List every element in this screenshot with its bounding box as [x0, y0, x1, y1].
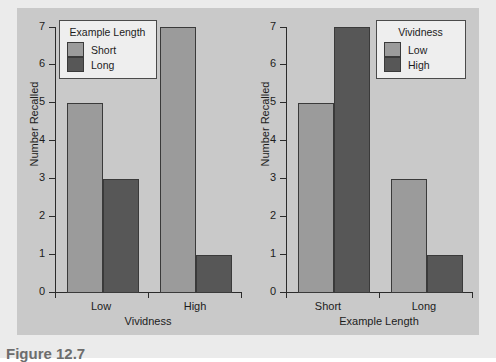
x-axis-title-right: Example Length — [286, 315, 472, 327]
legend-row-long: Long — [67, 57, 148, 72]
legend-label-low: Low — [408, 44, 427, 56]
legend-row-short: Short — [67, 42, 148, 57]
legend-row-low: Low — [384, 42, 457, 57]
bar-high-short — [160, 27, 196, 293]
legend-row-high: High — [384, 57, 457, 72]
y-tick-label-1-left: 1 — [39, 247, 45, 259]
figure-caption: Figure 12.7 — [6, 345, 85, 362]
bar-short-high — [334, 27, 370, 293]
legend-title-vividness: Vividness — [384, 26, 457, 38]
legend-vividness: Vividness Low High — [376, 20, 466, 79]
bar-high-long — [196, 255, 232, 293]
y-axis-title-left: Number Recalled — [28, 54, 40, 194]
x-tick-end-left — [241, 292, 242, 298]
bar-long-high — [427, 255, 463, 293]
legend-title-example-length: Example Length — [67, 26, 148, 38]
x-tick-label-short: Short — [288, 300, 368, 312]
y-tick-label-0-left: 0 — [39, 285, 45, 297]
bar-low-short — [67, 103, 103, 293]
bar-short-low — [298, 103, 334, 293]
legend-label-long: Long — [91, 59, 114, 71]
legend-swatch-long — [67, 57, 84, 72]
legend-swatch-low — [384, 42, 401, 57]
bar-low-long — [103, 179, 139, 293]
x-tick-middle-left — [148, 292, 149, 298]
x-axis-title-left: Vividness — [55, 315, 241, 327]
y-tick-label-0-right: 0 — [270, 285, 276, 297]
chart-panel-left: 0 1 2 3 4 5 6 7 Number Recalled — [17, 8, 248, 335]
x-tick-start-left — [55, 292, 56, 298]
y-tick-label-7-left: 7 — [39, 20, 45, 32]
y-axis-title-right: Number Recalled — [259, 54, 271, 194]
x-tick-label-low: Low — [61, 300, 141, 312]
x-tick-label-high: High — [155, 300, 235, 312]
legend-label-short: Short — [91, 44, 116, 56]
y-tick-label-2-right: 2 — [270, 209, 276, 221]
chart-panel-right: 0 1 2 3 4 5 6 7 Number Recalled — [248, 8, 479, 335]
x-tick-label-long: Long — [384, 300, 464, 312]
x-tick-middle-right — [379, 292, 380, 298]
legend-swatch-high — [384, 57, 401, 72]
x-tick-start-right — [286, 292, 287, 298]
legend-example-length: Example Length Short Long — [59, 20, 157, 79]
legend-label-high: High — [408, 59, 430, 71]
y-tick-label-2-left: 2 — [39, 209, 45, 221]
y-tick-label-1-right: 1 — [270, 247, 276, 259]
x-tick-end-right — [472, 292, 473, 298]
legend-swatch-short — [67, 42, 84, 57]
bar-long-low — [391, 179, 427, 293]
y-tick-label-7-right: 7 — [270, 20, 276, 32]
